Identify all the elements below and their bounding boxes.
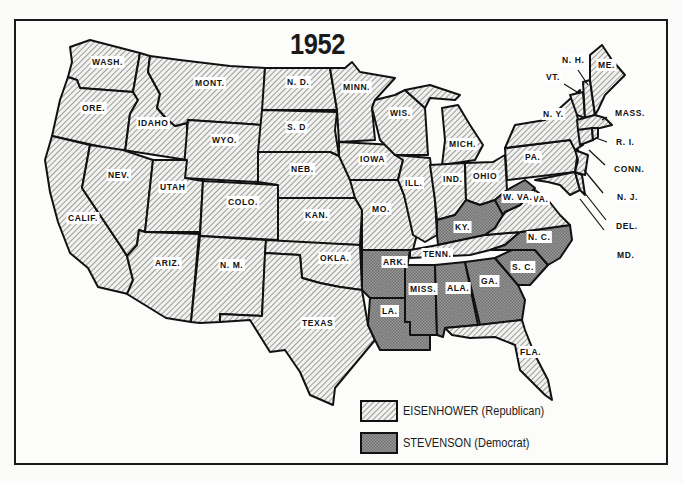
state-me bbox=[590, 45, 625, 115]
svg-text:MINN.: MINN. bbox=[343, 82, 370, 92]
legend-label-republican: EISENHOWER (Republican) bbox=[403, 403, 544, 418]
svg-text:IDAHO: IDAHO bbox=[138, 118, 168, 128]
svg-text:ME.: ME. bbox=[598, 60, 615, 70]
svg-text:IND.: IND. bbox=[443, 174, 462, 184]
svg-text:NEB.: NEB. bbox=[291, 164, 314, 174]
svg-text:LA.: LA. bbox=[382, 306, 398, 316]
svg-text:MD.: MD. bbox=[617, 250, 634, 260]
us-electoral-map: WASH. ORE. CALIF. IDAHO NEV. MONT. WYO. … bbox=[0, 0, 683, 483]
svg-text:OHIO: OHIO bbox=[473, 171, 497, 181]
map-title: 1952 bbox=[290, 27, 345, 61]
svg-text:S. D: S. D bbox=[287, 122, 306, 132]
svg-text:WYO.: WYO. bbox=[212, 135, 237, 145]
svg-text:NEV.: NEV. bbox=[108, 170, 129, 180]
svg-text:PA.: PA. bbox=[525, 152, 540, 162]
svg-text:KY.: KY. bbox=[455, 222, 470, 232]
svg-text:COLO.: COLO. bbox=[228, 197, 258, 207]
svg-text:N. Y.: N. Y. bbox=[543, 109, 564, 119]
state-colo bbox=[200, 181, 278, 240]
svg-text:ALA.: ALA. bbox=[447, 283, 469, 293]
svg-text:N. D.: N. D. bbox=[287, 77, 309, 87]
legend-label-democrat: STEVENSON (Democrat) bbox=[403, 435, 529, 450]
legend-swatch-democrat bbox=[361, 433, 397, 453]
state-wyo bbox=[183, 120, 262, 182]
state-fla bbox=[445, 320, 552, 400]
svg-text:OKLA.: OKLA. bbox=[320, 253, 349, 263]
svg-text:GA.: GA. bbox=[481, 276, 498, 286]
svg-text:ARIZ.: ARIZ. bbox=[155, 258, 180, 268]
svg-text:WASH.: WASH. bbox=[92, 57, 123, 67]
svg-text:ARK.: ARK. bbox=[383, 257, 406, 267]
state-kan bbox=[278, 198, 362, 245]
svg-text:KAN.: KAN. bbox=[305, 210, 328, 220]
state-nd bbox=[262, 68, 337, 110]
state-mont bbox=[148, 56, 265, 126]
svg-text:TEXAS: TEXAS bbox=[302, 318, 333, 328]
legend-swatch-republican bbox=[361, 401, 397, 421]
state-nj bbox=[575, 150, 588, 175]
svg-text:VA.: VA. bbox=[533, 194, 548, 204]
svg-text:W. VA.: W. VA. bbox=[503, 192, 532, 202]
svg-text:MONT.: MONT. bbox=[195, 78, 224, 88]
state-mich bbox=[442, 105, 483, 165]
svg-text:CALIF.: CALIF. bbox=[68, 213, 98, 223]
svg-text:R. I.: R. I. bbox=[616, 137, 635, 147]
svg-text:S. C.: S. C. bbox=[512, 262, 534, 272]
svg-text:N. J.: N. J. bbox=[617, 192, 638, 202]
svg-text:MASS.: MASS. bbox=[615, 108, 645, 118]
svg-text:IOWA: IOWA bbox=[360, 154, 385, 164]
svg-text:VT.: VT. bbox=[546, 72, 560, 82]
svg-text:N. C.: N. C. bbox=[528, 232, 550, 242]
svg-text:FLA.: FLA. bbox=[520, 347, 541, 357]
svg-text:ILL.: ILL. bbox=[405, 178, 423, 188]
state-nm bbox=[191, 236, 266, 323]
state-conn bbox=[578, 128, 593, 145]
svg-text:N. M.: N. M. bbox=[220, 260, 243, 270]
svg-text:DEL.: DEL. bbox=[616, 221, 638, 231]
svg-text:ORE.: ORE. bbox=[82, 103, 105, 113]
svg-text:WIS.: WIS. bbox=[390, 108, 411, 118]
svg-text:MO.: MO. bbox=[372, 204, 390, 214]
state-ariz bbox=[127, 230, 199, 322]
svg-text:MICH.: MICH. bbox=[449, 139, 476, 149]
svg-text:TENN.: TENN. bbox=[423, 249, 452, 259]
svg-text:UTAH: UTAH bbox=[160, 182, 185, 192]
svg-text:N. H.: N. H. bbox=[562, 55, 584, 65]
svg-text:MISS.: MISS. bbox=[410, 284, 436, 294]
svg-text:CONN.: CONN. bbox=[614, 164, 644, 174]
state-miss bbox=[405, 265, 437, 335]
